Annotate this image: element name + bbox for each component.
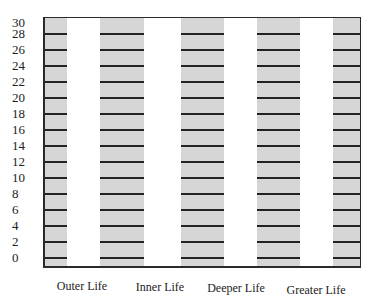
tick-line: [181, 65, 224, 67]
tick-line: [45, 33, 67, 35]
tick-line: [257, 257, 300, 259]
tick-line: [257, 177, 300, 179]
tick-line: [45, 257, 67, 259]
y-tick-label: 20: [12, 91, 40, 104]
tick-line: [45, 81, 67, 83]
tick-line: [181, 193, 224, 195]
tick-line: [100, 241, 144, 243]
tick-line: [257, 49, 300, 51]
tick-line: [333, 129, 360, 131]
tick-line: [333, 65, 360, 67]
y-tick-label: 10: [12, 171, 40, 184]
tick-line: [100, 129, 144, 131]
tick-line: [100, 65, 144, 67]
tick-line: [181, 145, 224, 147]
tick-line: [45, 129, 67, 131]
column-band: [45, 18, 67, 266]
x-category-label: Greater Life: [287, 284, 346, 297]
tick-line: [181, 257, 224, 259]
tick-line: [257, 193, 300, 195]
tick-line: [257, 209, 300, 211]
tick-line: [333, 177, 360, 179]
tick-line: [257, 161, 300, 163]
tick-line: [100, 33, 144, 35]
tick-line: [100, 209, 144, 211]
tick-line: [181, 33, 224, 35]
tick-line: [100, 193, 144, 195]
x-category-label: Inner Life: [136, 281, 184, 294]
tick-line: [333, 81, 360, 83]
y-tick-label: 12: [12, 155, 40, 168]
tick-line: [257, 145, 300, 147]
tick-line: [257, 225, 300, 227]
y-tick-label: 14: [12, 139, 40, 152]
tick-line: [100, 81, 144, 83]
tick-line: [181, 225, 224, 227]
tick-line: [181, 241, 224, 243]
tick-line: [333, 257, 360, 259]
tick-line: [45, 65, 67, 67]
tick-line: [257, 81, 300, 83]
y-tick-label: 18: [12, 107, 40, 120]
tick-line: [100, 225, 144, 227]
x-category-label: Outer Life: [57, 280, 107, 293]
tick-line: [333, 225, 360, 227]
tick-line: [257, 65, 300, 67]
y-tick-label: 4: [12, 219, 40, 232]
y-tick-label: 2: [12, 235, 40, 248]
column-band: [181, 18, 224, 266]
y-tick-label: 6: [12, 203, 40, 216]
tick-line: [45, 177, 67, 179]
tick-line: [257, 129, 300, 131]
tick-line: [45, 145, 67, 147]
tick-line: [257, 33, 300, 35]
tick-line: [45, 161, 67, 163]
column-band: [100, 18, 144, 266]
tick-line: [181, 113, 224, 115]
x-category-label: Deeper Life: [207, 282, 265, 295]
column-band: [333, 18, 360, 266]
tick-line: [181, 177, 224, 179]
tick-line: [181, 81, 224, 83]
tick-line: [181, 49, 224, 51]
tick-line: [181, 129, 224, 131]
tick-line: [100, 113, 144, 115]
tick-line: [333, 97, 360, 99]
tick-line: [100, 257, 144, 259]
tick-line: [257, 97, 300, 99]
tick-line: [45, 241, 67, 243]
tick-line: [333, 161, 360, 163]
plot-frame: [43, 17, 361, 268]
tick-line: [257, 241, 300, 243]
y-tick-label: 22: [12, 75, 40, 88]
tick-line: [45, 209, 67, 211]
y-tick-label: 8: [12, 187, 40, 200]
tick-line: [45, 225, 67, 227]
tick-line: [181, 97, 224, 99]
tick-line: [45, 193, 67, 195]
tick-line: [100, 161, 144, 163]
blank-bar-chart: 302826242220181614121086420 Outer LifeIn…: [0, 0, 380, 303]
tick-line: [333, 193, 360, 195]
tick-line: [45, 97, 67, 99]
tick-line: [333, 241, 360, 243]
tick-line: [100, 97, 144, 99]
tick-line: [333, 209, 360, 211]
tick-line: [45, 113, 67, 115]
y-tick-label: 16: [12, 123, 40, 136]
tick-line: [45, 49, 67, 51]
tick-line: [100, 177, 144, 179]
tick-line: [100, 49, 144, 51]
tick-line: [257, 113, 300, 115]
y-tick-label: 0: [12, 251, 40, 264]
tick-line: [333, 33, 360, 35]
y-tick-label: 26: [12, 43, 40, 56]
tick-line: [333, 113, 360, 115]
column-band: [257, 18, 300, 266]
y-tick-label: 28: [12, 27, 40, 40]
tick-line: [100, 145, 144, 147]
tick-line: [333, 49, 360, 51]
tick-line: [181, 209, 224, 211]
tick-line: [333, 145, 360, 147]
y-tick-label: 24: [12, 59, 40, 72]
